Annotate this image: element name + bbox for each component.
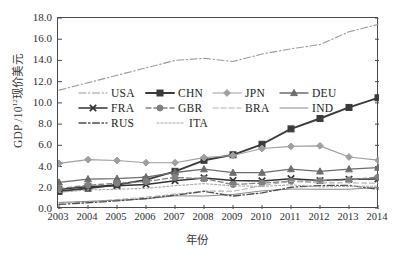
legend-row: USACHNJPNDEU <box>78 85 346 100</box>
x-tick-label: 2010 <box>251 211 272 222</box>
legend-swatch-fra-icon <box>78 102 108 114</box>
legend-swatch-chn-icon <box>145 87 175 99</box>
y-tick-label: 10.0 <box>18 96 52 108</box>
legend-swatch-jpn-icon <box>212 87 242 99</box>
legend-swatch-gbr-icon <box>145 102 175 114</box>
y-tick-label: 8.0 <box>18 117 52 129</box>
legend-label: JPN <box>242 87 265 99</box>
series-usa <box>59 24 378 90</box>
series-fra <box>58 175 379 193</box>
legend-item-chn[interactable]: CHN <box>145 87 212 99</box>
legend-swatch-usa-icon <box>78 87 108 99</box>
x-tick-label: 2004 <box>77 211 98 222</box>
legend-label: ITA <box>186 117 208 129</box>
legend-swatch-rus-icon <box>78 117 108 129</box>
chart-figure: GDP /1012现价美元 18.016.014.012.010.08.06.0… <box>0 0 393 257</box>
y-tick-label: 12.0 <box>18 75 52 87</box>
chart-legend: USACHNJPNDEUFRAGBRBRAINDRUSITA <box>78 85 346 130</box>
legend-swatch-bra-icon <box>212 102 242 114</box>
x-tick-label: 2013 <box>338 211 359 222</box>
y-tick-label: 2.0 <box>18 181 52 193</box>
x-tick-label: 2009 <box>222 211 243 222</box>
legend-label: BRA <box>242 102 270 114</box>
x-axis-tick-labels: 2003200420052006200720082009201020112012… <box>57 211 378 229</box>
legend-swatch-deu-icon <box>279 87 309 99</box>
series-jpn <box>58 142 379 166</box>
legend-item-fra[interactable]: FRA <box>78 102 145 114</box>
legend-item-usa[interactable]: USA <box>78 87 145 99</box>
legend-swatch-ind-icon <box>279 102 309 114</box>
x-tick-label: 2011 <box>280 211 301 222</box>
legend-item-gbr[interactable]: GBR <box>145 102 212 114</box>
y-tick-label: 14.0 <box>18 53 52 65</box>
legend-label: FRA <box>108 102 134 114</box>
legend-label: CHN <box>175 87 203 99</box>
legend-item-deu[interactable]: DEU <box>279 87 346 99</box>
y-tick-label: 16.0 <box>18 32 52 44</box>
x-tick-label: 2006 <box>135 211 156 222</box>
legend-label: USA <box>108 87 135 99</box>
legend-label: IND <box>309 102 333 114</box>
x-tick-label: 2008 <box>193 211 214 222</box>
legend-label: DEU <box>309 87 337 99</box>
y-tick-label: 4.0 <box>18 160 52 172</box>
y-tick-label: 18.0 <box>18 11 52 23</box>
legend-label: RUS <box>108 117 134 129</box>
figure-caption <box>0 250 393 256</box>
legend-item-jpn[interactable]: JPN <box>212 87 279 99</box>
x-tick-label: 2012 <box>309 211 330 222</box>
x-axis-title: 年份 <box>0 231 393 247</box>
x-tick-label: 2003 <box>48 211 69 222</box>
legend-row: RUSITA <box>78 115 346 130</box>
legend-swatch-ita-icon <box>156 117 186 129</box>
legend-item-bra[interactable]: BRA <box>212 102 279 114</box>
legend-item-ind[interactable]: IND <box>279 102 346 114</box>
x-tick-label: 2014 <box>367 211 388 222</box>
legend-row: FRAGBRBRAIND <box>78 100 346 115</box>
y-tick-label: 6.0 <box>18 138 52 150</box>
legend-label: GBR <box>175 102 203 114</box>
x-tick-label: 2007 <box>164 211 185 222</box>
legend-item-ita[interactable]: ITA <box>156 117 234 129</box>
legend-item-rus[interactable]: RUS <box>78 117 156 129</box>
x-tick-label: 2005 <box>106 211 127 222</box>
